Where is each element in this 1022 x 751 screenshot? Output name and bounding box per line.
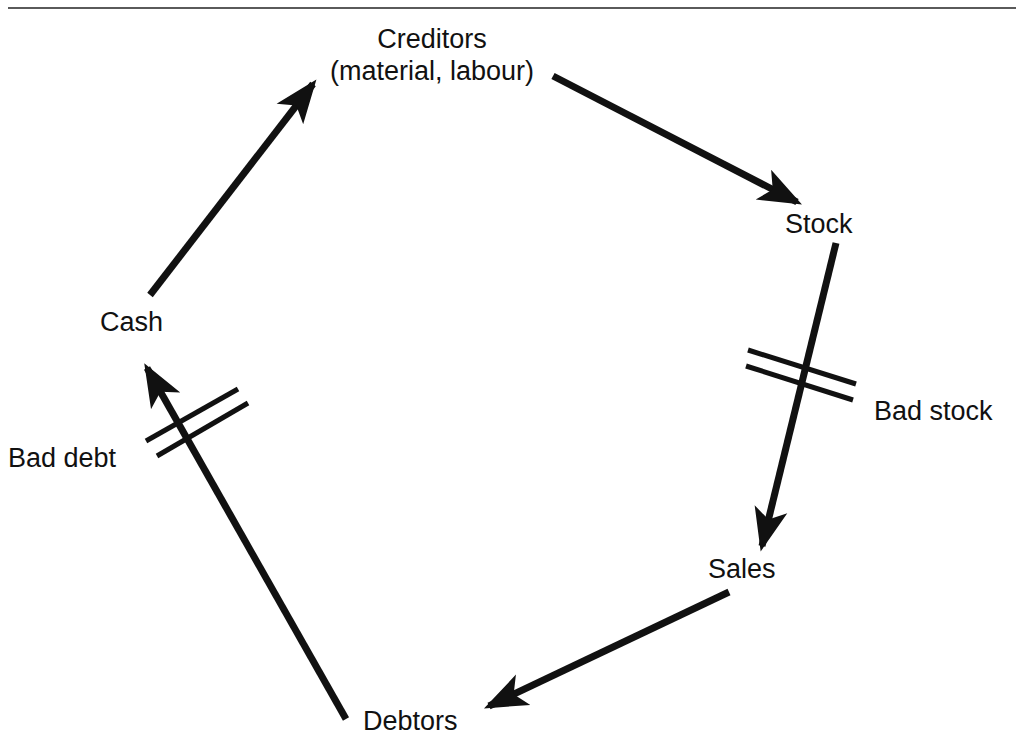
leakage-label-bad-debt: Bad debt — [8, 443, 116, 474]
node-label-stock: Stock — [785, 209, 853, 240]
arrow-debtors-to-cash — [147, 368, 346, 719]
node-label-sales: Sales — [708, 554, 776, 585]
cycle-arrows — [147, 76, 836, 719]
arrow-sales-to-debtors — [489, 592, 729, 706]
node-label-creditors-detail: (material, labour) — [312, 56, 552, 87]
leakage-label-bad-stock: Bad stock — [874, 396, 993, 427]
arrow-stock-to-sales — [762, 243, 836, 546]
arrow-creditors-to-stock — [553, 76, 797, 202]
node-label-debtors: Debtors — [363, 706, 458, 737]
node-label-cash: Cash — [100, 307, 163, 338]
cycle-diagram-svg — [0, 0, 1022, 751]
figure-canvas: Creditors (material, labour) Stock Sales… — [0, 0, 1022, 751]
arrow-cash-to-creditors — [150, 84, 313, 295]
node-label-creditors: Creditors — [332, 24, 532, 55]
